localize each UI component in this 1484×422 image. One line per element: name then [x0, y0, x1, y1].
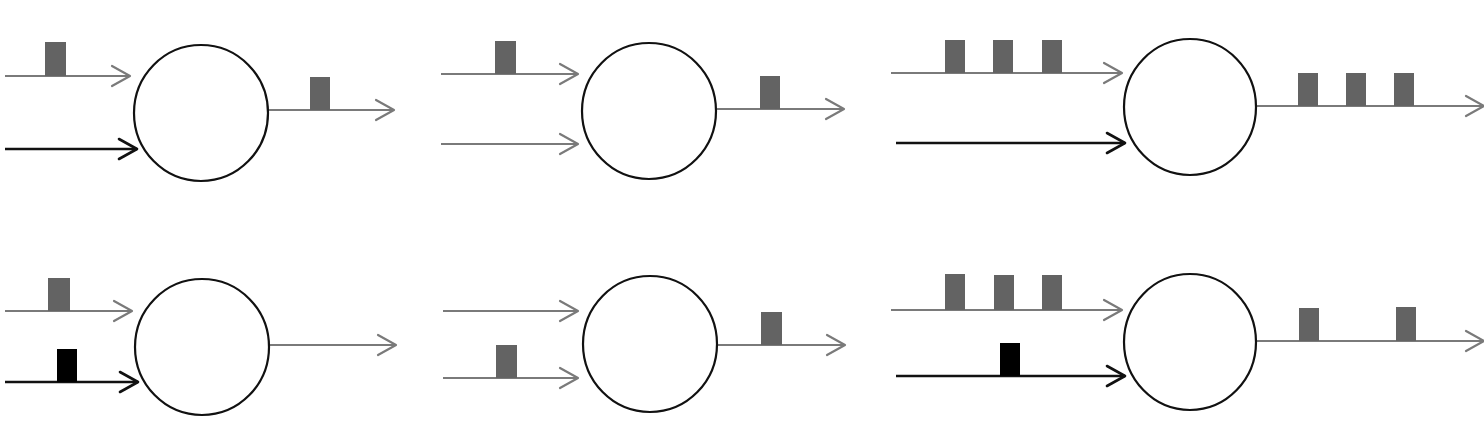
panel-bottom-middle — [443, 276, 845, 412]
spike-pulse — [994, 275, 1014, 310]
spike-pulse — [945, 40, 965, 73]
panel-bottom-right — [891, 274, 1484, 410]
output-train — [1257, 307, 1484, 351]
spike-pulse — [945, 274, 965, 310]
neuron-circle — [135, 279, 269, 415]
input-train-2 — [896, 343, 1125, 386]
spike-pulse — [48, 278, 70, 311]
spike-pulse — [1346, 73, 1366, 106]
input-train-1 — [441, 41, 578, 84]
input-train-2 — [441, 134, 578, 154]
spike-pulse — [993, 40, 1013, 73]
input-train-2 — [443, 345, 578, 388]
spike-pulse — [1394, 73, 1414, 106]
output-train — [270, 335, 396, 355]
input-train-1 — [443, 301, 578, 321]
neuron-circle — [1124, 274, 1256, 410]
neuron-coincidence-diagram — [0, 0, 1484, 422]
spike-pulse — [1396, 307, 1416, 341]
neuron-circle — [1124, 39, 1256, 175]
spike-pulse — [1299, 308, 1319, 341]
spike-pulse — [1042, 275, 1062, 310]
diagram-canvas — [0, 0, 1484, 422]
neuron-circle — [582, 43, 716, 179]
spike-pulse — [761, 312, 782, 345]
spike-pulse — [760, 76, 780, 109]
neuron-circle — [134, 45, 268, 181]
spike-pulse — [496, 345, 517, 378]
spike-pulse — [1298, 73, 1318, 106]
output-train — [1257, 73, 1484, 116]
input-train-2 — [896, 133, 1125, 153]
output-train — [268, 77, 394, 120]
output-train — [717, 76, 844, 119]
panel-bottom-left — [5, 278, 396, 415]
input-train-2 — [5, 139, 137, 159]
panel-top-middle — [441, 41, 844, 179]
spike-pulse — [1042, 40, 1062, 73]
input-train-1 — [5, 278, 132, 321]
input-train-1 — [5, 42, 130, 86]
spike-pulse — [45, 42, 66, 76]
spike-pulse — [57, 349, 77, 382]
spike-pulse — [310, 77, 330, 110]
panel-top-right — [891, 39, 1484, 175]
output-train — [718, 312, 845, 355]
neuron-circle — [583, 276, 717, 412]
spike-pulse — [495, 41, 516, 74]
input-train-2 — [5, 349, 138, 392]
input-train-1 — [891, 274, 1122, 320]
panel-top-left — [5, 42, 394, 181]
spike-pulse — [1000, 343, 1020, 376]
input-train-1 — [891, 40, 1122, 83]
